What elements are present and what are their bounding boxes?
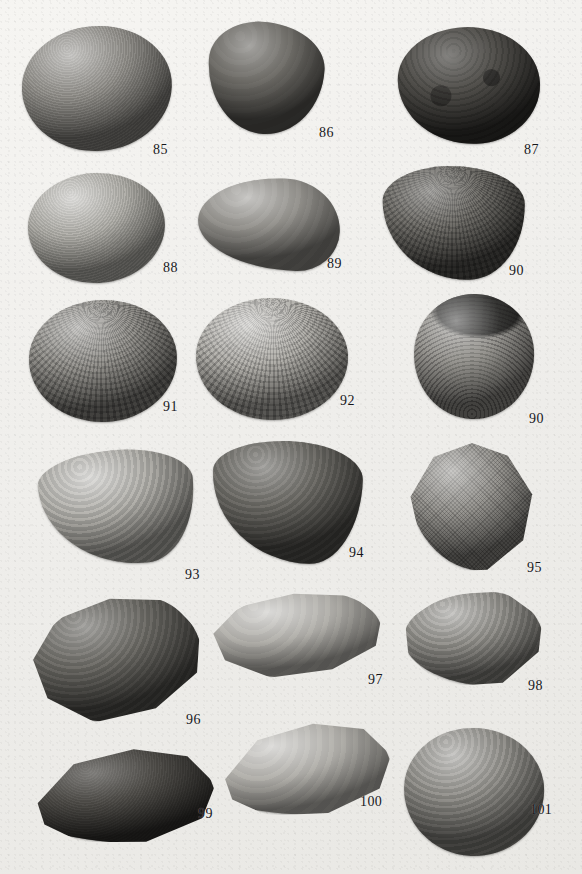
figure-number-label: 94 (349, 546, 364, 560)
specimen-figure-98 (403, 591, 545, 688)
specimen-figure-93 (35, 443, 199, 571)
figure-number-label: 96 (186, 713, 201, 727)
shell-body (18, 21, 176, 156)
figure-number-label: 95 (527, 561, 542, 575)
figure-number-label: 101 (530, 803, 552, 817)
shell-body (412, 292, 536, 421)
shell-body (35, 443, 199, 571)
shell-body (195, 297, 349, 422)
shell-body (210, 715, 396, 825)
specimen-figure-95 (408, 443, 536, 571)
figure-number-label: 89 (327, 257, 342, 271)
specimen-figure-99 (24, 743, 219, 851)
shell-body (25, 169, 168, 286)
figure-number-label: 86 (319, 126, 334, 140)
figure-number-label: 100 (360, 795, 382, 809)
specimen-figure-101 (401, 724, 548, 859)
specimen-figure-94 (210, 438, 364, 565)
shell-body (24, 587, 208, 729)
specimen-figure-96 (24, 587, 208, 729)
shell-body (196, 176, 341, 273)
figure-number-label: 88 (163, 261, 178, 275)
specimen-figure-88 (25, 169, 168, 286)
specimen-figure-90-interior (412, 292, 536, 421)
figure-number-label: 99 (198, 807, 213, 821)
shell-body (208, 588, 384, 682)
specimen-figure-89 (196, 176, 341, 273)
figure-number-label: 85 (153, 143, 168, 157)
shell-body (210, 438, 364, 565)
figure-number-label: 93 (185, 568, 200, 582)
specimen-figure-87 (396, 25, 542, 147)
specimen-figure-91 (27, 297, 179, 424)
specimen-plate: 85868788899091929093949596979899100101 (0, 0, 582, 874)
figure-number-label: 91 (163, 400, 178, 414)
figure-number-label: 87 (524, 143, 539, 157)
specimen-figure-86 (205, 19, 327, 137)
shell-body (401, 724, 548, 859)
specimen-figure-85 (18, 21, 176, 156)
figure-number-label: 90 (509, 264, 524, 278)
specimen-figure-92 (195, 297, 349, 422)
shell-body (382, 165, 526, 281)
figure-number-label: 97 (368, 673, 383, 687)
figure-number-label: 98 (528, 679, 543, 693)
shell-body (205, 19, 327, 137)
shell-body (408, 443, 536, 571)
shell-body (403, 591, 545, 688)
specimen-figure-90 (382, 165, 526, 281)
figure-number-label: 92 (340, 394, 355, 408)
figure-number-label: 90 (529, 412, 544, 426)
shell-body (27, 297, 179, 424)
specimen-figure-100 (210, 715, 396, 825)
shell-body (24, 743, 219, 851)
specimen-figure-97 (208, 588, 384, 682)
shell-body (396, 25, 542, 147)
